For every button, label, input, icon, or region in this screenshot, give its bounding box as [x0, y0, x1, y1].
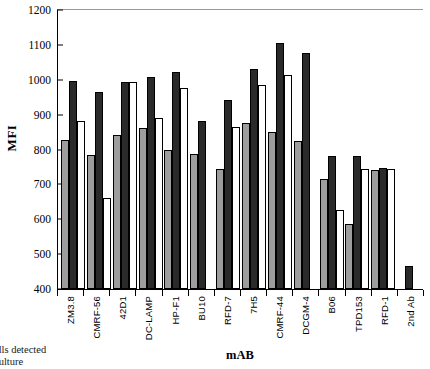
- bar-group: [319, 10, 345, 289]
- figure-caption-cropped: ells detected culture: [0, 344, 114, 368]
- bar: [405, 266, 413, 289]
- bar: [216, 169, 224, 289]
- chart-figure: MFI 120011001000900800700600500400 ZM3.8…: [0, 0, 430, 369]
- bar: [336, 210, 344, 289]
- bar-group: [267, 10, 293, 289]
- x-axis-category-labels: ZM3.8CMRF-5642D1DC-LAMPHP-F1BU10RFD-77H5…: [57, 296, 423, 346]
- y-tick-label: 500: [34, 248, 58, 260]
- bar: [328, 156, 336, 289]
- caption-line-1: ells detected: [0, 344, 114, 356]
- x-label-cell: BU10: [188, 296, 214, 346]
- bar: [190, 154, 198, 289]
- bar: [268, 132, 276, 289]
- x-tick-label: 7H5: [248, 296, 259, 314]
- y-tick-label: 700: [34, 178, 58, 190]
- bar: [69, 81, 77, 289]
- bar-group: [138, 10, 164, 289]
- x-label-cell: CMRF-56: [83, 296, 109, 346]
- bar-series-container: [58, 10, 423, 289]
- bar: [198, 121, 206, 289]
- x-label-cell: RFD-1: [371, 296, 397, 346]
- x-label-cell: RFD-7: [214, 296, 240, 346]
- x-label-cell: DCGM-4: [292, 296, 318, 346]
- y-tick-label: 600: [34, 213, 58, 225]
- caption-line-2: culture: [0, 356, 114, 368]
- x-tick-label: ZM3.8: [65, 296, 76, 324]
- bar-group: [396, 10, 422, 289]
- x-label-cell: 7H5: [240, 296, 266, 346]
- bar: [147, 77, 155, 289]
- x-tick-label: CMRF-44: [274, 296, 285, 339]
- bar: [387, 169, 395, 289]
- bar: [129, 82, 137, 289]
- x-tick-label: BU10: [195, 296, 206, 321]
- x-tick-label: TPD153: [352, 296, 363, 332]
- x-label-cell: 42D1: [109, 296, 135, 346]
- x-tick-label: HP-F1: [169, 296, 180, 324]
- x-label-cell: DC-LAMP: [135, 296, 161, 346]
- bar: [164, 150, 172, 289]
- x-tick-label: B06: [326, 296, 337, 314]
- bar-group: [189, 10, 215, 289]
- x-tick-label: RFD-1: [378, 296, 389, 325]
- bar-group: [241, 10, 267, 289]
- x-label-cell: ZM3.8: [57, 296, 83, 346]
- bar: [320, 179, 328, 289]
- bar: [103, 198, 111, 289]
- x-label-cell: HP-F1: [162, 296, 188, 346]
- bar: [379, 168, 387, 289]
- y-tick-label: 1100: [28, 39, 58, 51]
- bar: [113, 135, 121, 289]
- x-tick-label: DC-LAMP: [143, 296, 154, 340]
- bar-group: [370, 10, 396, 289]
- y-tick-label: 900: [34, 109, 58, 121]
- bar: [284, 75, 292, 289]
- bar-group: [163, 10, 189, 289]
- x-tick-label: CMRF-56: [91, 296, 102, 339]
- bar: [95, 92, 103, 289]
- bar: [155, 118, 163, 289]
- bar: [258, 85, 266, 289]
- bar: [250, 69, 258, 289]
- bar-group: [60, 10, 86, 289]
- x-tick-mark: [423, 290, 424, 296]
- y-tick-label: 1000: [28, 74, 58, 86]
- bar-group: [215, 10, 241, 289]
- y-tick-label: 400: [34, 283, 58, 295]
- bar: [87, 155, 95, 289]
- bar: [139, 128, 147, 289]
- x-tick-label: RFD-7: [221, 296, 232, 325]
- y-tick-label: 800: [34, 144, 58, 156]
- x-label-cell: B06: [318, 296, 344, 346]
- plot-area: 120011001000900800700600500400: [57, 9, 423, 290]
- bar: [276, 43, 284, 289]
- bar: [224, 100, 232, 289]
- bar: [371, 170, 379, 289]
- bar: [242, 123, 250, 289]
- x-label-cell: 2nd Ab: [397, 296, 423, 346]
- bar: [294, 141, 302, 289]
- bar: [361, 169, 369, 289]
- bar: [345, 224, 353, 289]
- x-tick-label: DCGM-4: [300, 296, 311, 335]
- bar: [61, 140, 69, 289]
- x-label-cell: CMRF-44: [266, 296, 292, 346]
- bar-group: [86, 10, 112, 289]
- x-label-cell: TPD153: [345, 296, 371, 346]
- x-tick-label: 2nd Ab: [404, 296, 415, 327]
- bar: [353, 156, 361, 289]
- bar-group: [112, 10, 138, 289]
- bar: [77, 121, 85, 289]
- bar-group: [293, 10, 319, 289]
- y-tick-label: 1200: [28, 4, 58, 16]
- bar: [180, 88, 188, 289]
- x-tick-label: 42D1: [117, 296, 128, 320]
- bar: [302, 53, 310, 289]
- bar: [232, 127, 240, 289]
- bar-group: [344, 10, 370, 289]
- bar: [121, 82, 129, 289]
- bar: [172, 72, 180, 289]
- y-axis-title: MFI: [4, 108, 20, 168]
